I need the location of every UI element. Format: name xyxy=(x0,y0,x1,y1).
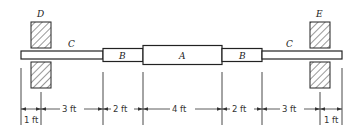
dim-4: 4 ft xyxy=(172,104,187,114)
dim-6: 3 ft xyxy=(282,104,297,114)
label-d: D xyxy=(36,9,44,19)
label-e: E xyxy=(315,9,323,19)
label-b-left: B xyxy=(118,51,126,61)
dim-3: 2 ft xyxy=(113,104,128,114)
label-a: A xyxy=(178,51,186,61)
shaft-c-left xyxy=(21,51,103,59)
extension-lines xyxy=(21,68,342,125)
dim-2: 3 ft xyxy=(62,104,77,114)
shaft-c-right xyxy=(262,51,342,59)
label-c-right: C xyxy=(286,39,293,49)
shaft-diagram: D E C C B B A xyxy=(0,0,359,131)
dim-7: 1 ft xyxy=(324,115,339,125)
label-c-left: C xyxy=(68,39,75,49)
label-b-right: B xyxy=(238,51,246,61)
dim-1: 1 ft xyxy=(24,115,39,125)
dim-5: 2 ft xyxy=(232,104,247,114)
